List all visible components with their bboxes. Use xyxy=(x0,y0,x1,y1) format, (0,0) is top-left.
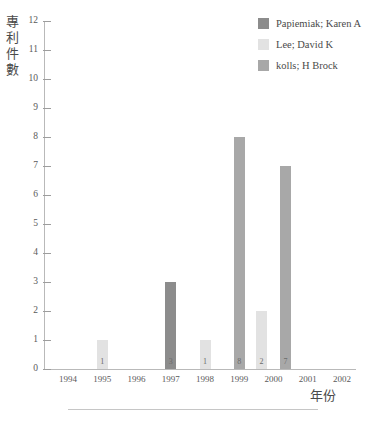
bar-value-label: 1 xyxy=(200,357,211,366)
bar-value-label: 7 xyxy=(280,357,291,366)
y-axis-tick: 0 xyxy=(43,369,51,370)
y-axis-tick: 12 xyxy=(43,21,51,22)
y-axis-tick: 2 xyxy=(43,311,51,312)
y-axis-title-char: 利 xyxy=(4,30,21,46)
bar[interactable]: 1 xyxy=(97,340,108,369)
y-axis-tick: 8 xyxy=(43,137,51,138)
y-axis-title-char: 件 xyxy=(4,46,21,62)
bar[interactable]: 1 xyxy=(200,340,211,369)
bar[interactable]: 3 xyxy=(165,282,176,369)
y-axis-tick-label: 11 xyxy=(29,44,38,55)
y-axis-title-char: 數 xyxy=(4,62,21,78)
bar[interactable]: 7 xyxy=(280,166,291,369)
y-axis-tick-label: 12 xyxy=(29,15,39,26)
y-axis-tick-label: 4 xyxy=(33,247,38,258)
y-axis-tick: 5 xyxy=(43,224,51,225)
x-axis-tick-label: 2002 xyxy=(322,374,362,385)
bar-value-label: 3 xyxy=(165,357,176,366)
plot-area: 0123456789101112 131827 1994199519961997… xyxy=(44,22,356,370)
y-axis-tick: 4 xyxy=(43,253,51,254)
y-axis-tick: 7 xyxy=(43,166,51,167)
y-axis-title-char: 專 xyxy=(4,14,21,30)
y-axis-line xyxy=(44,22,45,370)
patent-bar-chart: Papiemiak; Karen ALee; David Kkolls; H B… xyxy=(0,0,388,423)
x-axis-title: 年份 xyxy=(310,388,336,403)
y-axis-tick-label: 1 xyxy=(33,334,38,345)
bottom-divider xyxy=(68,409,318,410)
bar-value-label: 1 xyxy=(97,357,108,366)
y-axis-tick: 10 xyxy=(43,79,51,80)
y-axis-tick-label: 5 xyxy=(33,218,38,229)
y-axis-tick: 9 xyxy=(43,108,51,109)
y-axis-tick-label: 8 xyxy=(33,131,38,142)
bar-value-label: 2 xyxy=(256,357,267,366)
y-axis-tick-label: 3 xyxy=(33,276,38,287)
x-axis-line xyxy=(44,369,356,370)
y-axis-tick: 11 xyxy=(43,50,51,51)
y-axis-tick: 1 xyxy=(43,340,51,341)
y-axis-tick-label: 6 xyxy=(33,189,38,200)
y-axis-tick-label: 9 xyxy=(33,102,38,113)
y-axis-tick: 6 xyxy=(43,195,51,196)
bar-value-label: 8 xyxy=(234,357,245,366)
y-axis-tick-label: 2 xyxy=(33,305,38,316)
y-axis-title: 專利件數 xyxy=(4,14,21,78)
y-axis-tick-label: 7 xyxy=(33,160,38,171)
bar[interactable]: 2 xyxy=(256,311,267,369)
bar[interactable]: 8 xyxy=(234,137,245,369)
y-axis-tick-label: 10 xyxy=(29,73,39,84)
y-axis-tick-label: 0 xyxy=(33,363,38,374)
y-axis-tick: 3 xyxy=(43,282,51,283)
